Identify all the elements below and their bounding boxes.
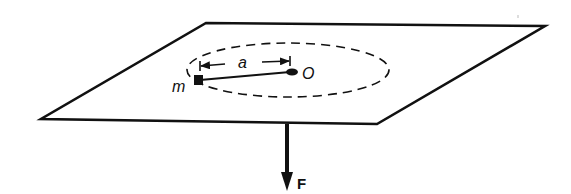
- radius-label: a: [238, 54, 247, 71]
- diagram-canvas: a m O F: [0, 0, 571, 194]
- mass-block: [194, 75, 203, 85]
- force-label: F: [297, 175, 306, 192]
- center-point-o: [286, 69, 298, 76]
- center-label: O: [302, 65, 314, 82]
- force-arrow-head: [281, 172, 293, 191]
- radius-arrow-right: [262, 61, 289, 62]
- mass-label: m: [172, 78, 185, 95]
